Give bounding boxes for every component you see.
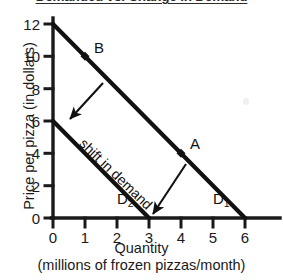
shift-arrow-lower [153, 164, 186, 214]
x-axis-label: Quantity [0, 241, 283, 257]
y-tick-label-12: 12 [12, 17, 40, 32]
demand-curve-figure: Demanded vs. Change in Demand [0, 0, 283, 280]
shift-arrow-upper [70, 83, 103, 119]
curve-label-d1-text: D [213, 190, 224, 207]
y-axis-label: Price per pizza (in dollars) [21, 31, 37, 221]
curve-label-d1-subscript: 1 [224, 197, 230, 209]
x-axis-label-units: (millions of frozen pizzas/month) [0, 257, 283, 274]
demand-curve-d1 [53, 24, 245, 218]
curve-label-d1: D1 [213, 191, 230, 206]
point-a-label: A [190, 136, 200, 151]
x-axis-label-group: Quantity (millions of frozen pizzas/mont… [0, 241, 283, 273]
point-b-label: B [94, 40, 104, 55]
